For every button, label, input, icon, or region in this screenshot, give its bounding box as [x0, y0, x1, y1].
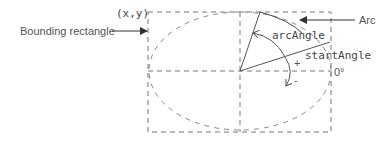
plus-sign: +: [294, 57, 300, 69]
start-angle-label: startAngle: [305, 49, 371, 62]
arc-angle-label: arcAngle: [272, 29, 325, 42]
arc-label: Arc: [359, 14, 376, 26]
arc-end-radius: [240, 12, 260, 71]
minus-sign: -: [294, 74, 298, 86]
arc-diagram: Bounding rectangle (x,y) Arc arcAngle st…: [0, 0, 386, 143]
bounding-rectangle-label: Bounding rectangle: [20, 25, 115, 37]
zero-degree-label: 0°: [334, 66, 345, 78]
origin-label: (x,y): [116, 7, 149, 20]
